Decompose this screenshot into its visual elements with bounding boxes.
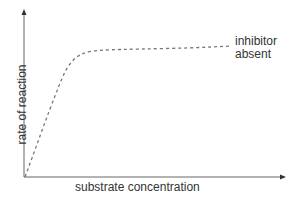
- annotation-line-2: absent: [235, 48, 277, 61]
- y-axis-label: rate of reaction: [16, 50, 29, 160]
- y-axis-arrow-icon: [22, 9, 27, 15]
- chart-canvas: [0, 0, 292, 200]
- inhibitor-absent-curve: [25, 46, 232, 177]
- x-axis-label: substrate concentration: [75, 181, 200, 194]
- x-axis-arrow-icon: [280, 175, 286, 180]
- curve-annotation: inhibitor absent: [235, 35, 277, 61]
